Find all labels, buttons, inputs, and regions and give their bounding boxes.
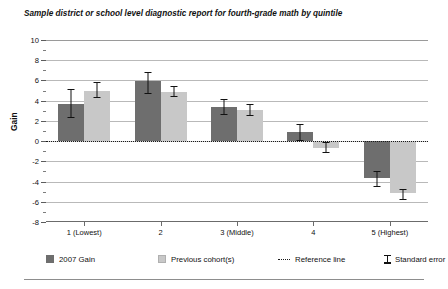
y-axis-tick [41, 222, 46, 223]
x-axis-label: 1 (Lowest) [67, 228, 102, 237]
y-axis-tick [41, 101, 46, 102]
y-axis-minor-tick [43, 151, 46, 152]
error-bar-cap-top [297, 124, 304, 125]
x-axis-label: 3 (Middle) [220, 228, 253, 237]
legend-item-label: Previous cohort(s) [171, 255, 234, 264]
y-axis-tick [41, 161, 46, 162]
y-axis-label: -6 [32, 197, 39, 206]
x-axis-label: 2 [159, 228, 163, 237]
y-axis-minor-tick [43, 131, 46, 132]
error-bar-cap-top [399, 189, 406, 190]
error-bar-cap-bottom [373, 186, 380, 187]
error-bar-cap-bottom [399, 199, 406, 200]
error-bar-cap-bottom [94, 97, 101, 98]
error-bar-cap-bottom [221, 114, 228, 115]
plot-area: 1086420-2-4-6-8 1 (Lowest)23 (Middle)45 … [46, 40, 428, 222]
error-bar [91, 82, 103, 97]
y-axis-title: Gain [9, 112, 19, 131]
legend-item-label: Reference line [295, 255, 345, 264]
y-axis-minor-tick [43, 50, 46, 51]
legend-item[interactable]: Reference line [278, 252, 345, 266]
y-axis-minor-tick [43, 192, 46, 193]
error-bar-cap-top [373, 171, 380, 172]
error-bar-stem [376, 171, 377, 186]
footer-divider [24, 279, 424, 280]
legend-reference-line-icon [278, 259, 290, 260]
y-axis-minor-tick [43, 91, 46, 92]
bar [161, 92, 187, 142]
error-bar [320, 142, 332, 153]
y-axis-label: -4 [32, 177, 39, 186]
y-axis-tick [41, 121, 46, 122]
error-bar-cap-top [94, 82, 101, 83]
error-bar-cap-top [68, 89, 75, 90]
reference-line [46, 141, 428, 142]
legend-swatch-previous-cohorts [158, 255, 166, 263]
error-bar-stem [224, 99, 225, 115]
error-bar-cap-bottom [144, 93, 151, 94]
error-bar-cap-bottom [297, 140, 304, 141]
y-axis-minor-tick [43, 171, 46, 172]
error-bar [371, 171, 383, 186]
legend-item[interactable]: 2007 Gain [46, 252, 95, 266]
y-axis-label: -2 [32, 157, 39, 166]
error-bar [168, 86, 180, 97]
legend-swatch-2007-gain [46, 255, 54, 263]
y-axis-tick [41, 202, 46, 203]
error-bar-cap-top [144, 72, 151, 73]
gridline [46, 80, 428, 81]
error-bar-stem [71, 89, 72, 118]
error-bar-stem [147, 72, 148, 93]
legend-item[interactable]: Previous cohort(s) [158, 252, 234, 266]
y-axis-label: -8 [32, 218, 39, 227]
error-bar-cap-bottom [68, 117, 75, 118]
y-axis-tick [41, 80, 46, 81]
gridline [46, 202, 428, 203]
error-bar [218, 99, 230, 115]
x-axis-tick [237, 222, 238, 226]
error-bar [65, 89, 77, 118]
y-axis-tick [41, 40, 46, 41]
error-bar-cap-top [323, 142, 330, 143]
legend-item-label: Standard error [395, 255, 445, 264]
error-bar [142, 72, 154, 93]
error-bar-cap-bottom [247, 115, 254, 116]
error-bar [294, 124, 306, 141]
y-axis-label: 6 [35, 76, 39, 85]
error-bar-cap-top [247, 104, 254, 105]
error-bar [244, 104, 256, 116]
x-axis-tick [313, 222, 314, 226]
y-axis-minor-tick [43, 212, 46, 213]
error-bar-cap-top [170, 86, 177, 87]
y-axis-label: 2 [35, 116, 39, 125]
y-axis-label: 4 [35, 96, 39, 105]
error-bar-cap-top [221, 99, 228, 100]
y-axis-tick [41, 182, 46, 183]
x-axis-tick [390, 222, 391, 226]
error-bar-stem [97, 82, 98, 97]
legend-item-label: 2007 Gain [59, 255, 95, 264]
error-bar-cap-bottom [323, 152, 330, 153]
bar [390, 141, 416, 193]
legend-standard-error-icon [384, 255, 391, 264]
x-axis-tick [161, 222, 162, 226]
y-axis-label: 0 [35, 137, 39, 146]
chart-title: Sample district or school level diagnost… [24, 9, 434, 18]
y-axis-label: 10 [31, 36, 39, 45]
gridline [46, 60, 428, 61]
x-axis-tick [84, 222, 85, 226]
y-axis-minor-tick [43, 70, 46, 71]
error-bar-cap-bottom [170, 96, 177, 97]
chart-legend: 2007 GainPrevious cohort(s)Reference lin… [46, 252, 436, 268]
legend-item[interactable]: Standard error [384, 252, 445, 266]
x-axis-label: 4 [311, 228, 315, 237]
bar [84, 91, 110, 142]
y-axis-label: 8 [35, 56, 39, 65]
error-bar [397, 189, 409, 200]
y-axis-minor-tick [43, 111, 46, 112]
error-bar-stem [300, 124, 301, 141]
x-axis-label: 5 (Highest) [371, 228, 408, 237]
y-axis-tick [41, 60, 46, 61]
